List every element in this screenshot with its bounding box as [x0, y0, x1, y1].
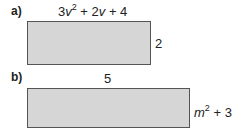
figure-b-height-label: m2 + 3	[194, 105, 232, 120]
figure-b-width-label: 5	[104, 71, 111, 86]
rectangle-b	[27, 88, 190, 128]
exponent: 2	[72, 2, 77, 12]
term: + 4	[105, 4, 127, 19]
figure-a-height-label: 2	[155, 36, 162, 51]
figure-a-width-label: 3v2 + 2v + 4	[58, 4, 127, 19]
variable: m	[194, 105, 205, 120]
term: + 2	[77, 4, 99, 19]
figure-b-label: b)	[11, 70, 22, 84]
figure-a-label: a)	[11, 4, 22, 18]
rectangle-a	[27, 21, 151, 65]
term: + 3	[210, 105, 232, 120]
variable: v	[65, 4, 72, 19]
exponent: 2	[205, 103, 210, 113]
